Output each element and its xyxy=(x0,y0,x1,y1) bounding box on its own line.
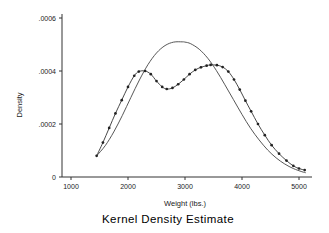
data-point-marker xyxy=(263,134,266,137)
data-point-marker xyxy=(188,73,191,76)
x-tick-label: 3000 xyxy=(177,183,193,190)
data-point-marker xyxy=(133,74,136,77)
kernel-density-chart: 0.0002.0004.0006 10002000300040005000 De… xyxy=(0,0,329,233)
data-point-marker xyxy=(250,110,253,113)
data-point-marker xyxy=(183,78,186,81)
y-tick-labels: 0.0002.0004.0006 xyxy=(38,15,56,181)
y-tick-label: .0002 xyxy=(38,121,56,128)
data-point-marker xyxy=(127,86,130,89)
data-point-marker xyxy=(278,152,281,155)
data-point-marker xyxy=(120,99,123,102)
x-tick-label: 4000 xyxy=(234,183,250,190)
data-point-marker xyxy=(238,88,241,91)
data-point-marker xyxy=(102,141,105,144)
data-point-marker xyxy=(95,154,98,157)
data-point-marker xyxy=(244,99,247,102)
data-point-marker xyxy=(161,86,164,89)
x-tick-label: 1000 xyxy=(63,183,79,190)
data-series xyxy=(95,42,306,173)
data-point-marker xyxy=(114,112,117,115)
axes: 0.0002.0004.0006 10002000300040005000 xyxy=(38,14,312,190)
x-tick-label: 2000 xyxy=(120,183,136,190)
data-point-marker xyxy=(155,80,158,83)
data-point-marker xyxy=(144,70,147,73)
data-point-marker xyxy=(227,70,230,73)
data-point-marker xyxy=(303,169,306,172)
data-point-marker xyxy=(209,64,212,67)
data-point-marker xyxy=(177,83,180,86)
x-tick-labels: 10002000300040005000 xyxy=(63,183,307,190)
data-point-marker xyxy=(108,127,111,130)
y-axis-title: Density xyxy=(15,92,24,117)
data-point-marker xyxy=(257,123,260,126)
data-point-marker xyxy=(205,64,208,67)
chart-title: Kernel Density Estimate xyxy=(102,213,234,225)
marker-density-curve xyxy=(97,65,305,170)
plot-area: 0.0002.0004.0006 10002000300040005000 De… xyxy=(0,0,329,233)
data-point-marker xyxy=(137,70,140,73)
data-point-marker xyxy=(221,66,224,69)
data-point-marker xyxy=(298,167,301,170)
data-point-markers xyxy=(95,64,306,172)
data-point-marker xyxy=(285,159,288,162)
smooth-density-curve xyxy=(97,42,306,173)
data-point-marker xyxy=(200,66,203,69)
data-point-marker xyxy=(194,69,197,72)
y-tick-label: 0 xyxy=(52,174,56,181)
data-point-marker xyxy=(165,88,168,91)
data-point-marker xyxy=(216,64,219,67)
data-point-marker xyxy=(171,87,174,90)
data-point-marker xyxy=(292,165,295,168)
y-tick-label: .0006 xyxy=(38,15,56,22)
y-tick-label: .0004 xyxy=(38,68,56,75)
x-tick-label: 5000 xyxy=(291,183,307,190)
data-point-marker xyxy=(149,73,152,76)
data-point-marker xyxy=(270,144,273,147)
data-point-marker xyxy=(233,78,236,81)
x-axis-title: Weight (lbs.) xyxy=(164,199,206,208)
